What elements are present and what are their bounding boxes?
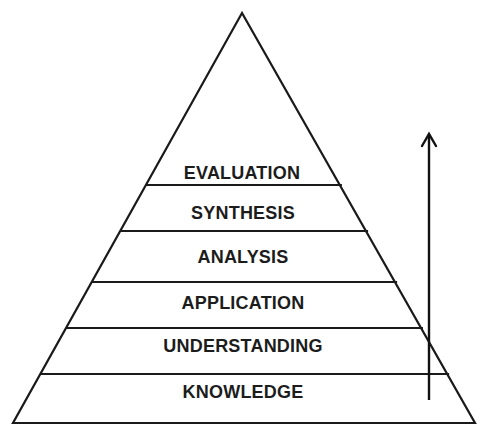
level-label-analysis: ANALYSIS <box>198 247 289 267</box>
level-label-knowledge: KNOWLEDGE <box>183 382 304 402</box>
up-arrow-icon <box>422 134 436 400</box>
level-label-application: APPLICATION <box>182 293 305 313</box>
level-label-understanding: UNDERSTANDING <box>163 336 322 356</box>
level-label-evaluation: EVALUATION <box>184 163 300 183</box>
level-label-synthesis: SYNTHESIS <box>191 203 295 223</box>
pyramid-diagram: EVALUATION SYNTHESIS ANALYSIS APPLICATIO… <box>0 0 483 437</box>
